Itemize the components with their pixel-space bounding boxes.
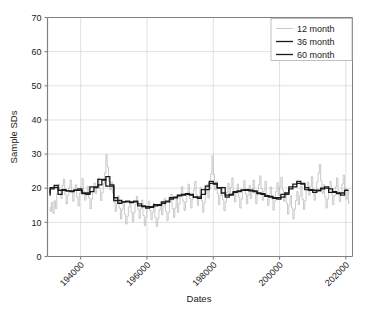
x-axis-title: Dates xyxy=(187,293,212,304)
legend-label-12-month: 12 month xyxy=(297,24,335,34)
y-axis-title: Sample SDs xyxy=(8,110,19,163)
x-tick-label: 202000 xyxy=(323,260,351,288)
y-tick-label: 70 xyxy=(31,13,41,23)
legend: 12 month36 month60 month xyxy=(271,19,352,61)
y-tick-label: 40 xyxy=(31,115,41,125)
legend-label-60-month: 60 month xyxy=(297,50,335,60)
series-line-12-month xyxy=(50,155,350,227)
y-tick-label: 10 xyxy=(31,218,41,228)
y-tick-label: 50 xyxy=(31,81,41,91)
chart-figure: 0102030405060701940001960001980002000002… xyxy=(0,0,369,315)
legend-label-36-month: 36 month xyxy=(297,37,335,47)
data-series-layer xyxy=(50,155,350,227)
x-tick-label: 200000 xyxy=(257,260,285,288)
x-tick-label: 194000 xyxy=(58,260,86,288)
x-tick-label: 198000 xyxy=(190,260,218,288)
y-tick-label: 0 xyxy=(36,252,41,262)
y-tick-label: 60 xyxy=(31,47,41,57)
y-tick-label: 30 xyxy=(31,149,41,159)
x-tick-label: 196000 xyxy=(124,260,152,288)
y-tick-label: 20 xyxy=(31,183,41,193)
chart-canvas: 0102030405060701940001960001980002000002… xyxy=(0,0,369,315)
